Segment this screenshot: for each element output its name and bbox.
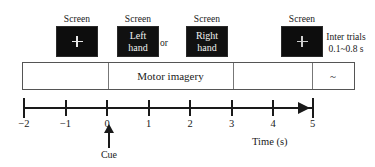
time-axis: −2 −1 0 1 2 3 4 5 xyxy=(0,92,375,130)
screen-thumbnail-fixation xyxy=(56,26,98,57)
axis-tick xyxy=(312,98,314,118)
cue-arrow-shaft xyxy=(108,132,110,148)
screen-caption: Screen xyxy=(56,14,98,25)
screen-caption: Screen xyxy=(281,14,323,25)
axis-tick xyxy=(272,100,274,116)
fixation-cross-icon xyxy=(297,36,308,47)
screen-caption: Screen xyxy=(117,14,159,25)
screen-group-left-hand: Screen Left hand xyxy=(117,14,159,57)
axis-tick xyxy=(106,100,108,116)
fixation-cross-icon xyxy=(72,36,83,47)
axis-line xyxy=(24,107,313,109)
axis-tick-label: 2 xyxy=(187,118,192,129)
axis-tick-label: 5 xyxy=(310,118,315,129)
timeline-bar: Motor imagery ~ xyxy=(22,62,355,90)
or-separator-label: or xyxy=(160,38,168,48)
axis-title: Time (s) xyxy=(252,136,288,147)
cue-label: Cue xyxy=(92,149,126,160)
axis-arrow-icon xyxy=(298,102,310,114)
screen-cue-text-right: Right hand xyxy=(196,30,218,53)
axis-tick xyxy=(23,98,25,118)
axis-tick-label: −2 xyxy=(18,118,29,129)
screen-group-fixation-end: Screen xyxy=(281,14,323,57)
axis-tick-label: 3 xyxy=(229,118,234,129)
screen-group-fixation-start: Screen xyxy=(56,14,98,57)
screen-cue-text-left: Left hand xyxy=(128,30,147,53)
bar-divider-3s xyxy=(233,63,234,89)
bar-segment-label-inter-trial: ~ xyxy=(312,63,354,89)
screen-thumbnail-left-hand: Left hand xyxy=(117,26,159,57)
axis-tick-label: −1 xyxy=(60,118,71,129)
axis-tick-label: 4 xyxy=(270,118,275,129)
screen-group-right-hand: Screen Right hand xyxy=(186,14,228,57)
screen-thumbnail-right-hand: Right hand xyxy=(186,26,228,57)
screen-caption: Screen xyxy=(186,14,228,25)
bar-segment-label-motor-imagery: Motor imagery xyxy=(108,63,233,89)
axis-tick xyxy=(65,100,67,116)
inter-trials-label: Inter trials 0.1~0.8 s xyxy=(318,32,374,55)
trial-timing-figure: Screen Screen Left hand or Screen Right … xyxy=(0,0,375,167)
axis-tick xyxy=(231,100,233,116)
axis-tick xyxy=(189,100,191,116)
axis-tick-label: 1 xyxy=(146,118,151,129)
screen-thumbnail-fixation-end xyxy=(281,26,323,57)
axis-tick xyxy=(148,100,150,116)
